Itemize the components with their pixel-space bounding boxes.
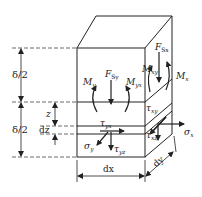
moment-xy-label: Mxy xyxy=(141,64,159,76)
dz-label: dz xyxy=(39,125,50,135)
sigma-x-label: σx xyxy=(184,127,194,138)
moment-x-label: Mx xyxy=(175,71,189,82)
upper-half-label: δ/2 xyxy=(12,69,28,80)
dy-dimension xyxy=(146,136,176,176)
z-label: z xyxy=(45,109,51,119)
tau-yz-label: τyz xyxy=(114,144,126,156)
front-face-loads xyxy=(93,80,130,150)
moment-yx-arrow xyxy=(125,86,129,112)
shear-force-x-label: FSx xyxy=(154,42,169,53)
tau-yx-label: τyx xyxy=(100,118,112,130)
sigma-y-label: σy xyxy=(84,141,94,153)
moment-yx-label: Myx xyxy=(125,77,143,89)
plate-element-diagram: δ/2 δ/2 z dz dx dy FSy My Myx τyx σy τyz… xyxy=(0,0,202,197)
reference-lines xyxy=(12,48,77,157)
thickness-dimension xyxy=(21,49,55,156)
moment-y-arrow xyxy=(93,86,97,112)
shear-force-y-label: FSy xyxy=(104,69,119,81)
moment-y-label: My xyxy=(82,77,96,89)
dy-label: dy xyxy=(151,154,166,169)
dx-label: dx xyxy=(103,164,114,174)
moment-x-arrow xyxy=(166,62,169,90)
lower-half-label: δ/2 xyxy=(12,124,28,135)
tau-xy-label: τxy xyxy=(146,103,158,115)
